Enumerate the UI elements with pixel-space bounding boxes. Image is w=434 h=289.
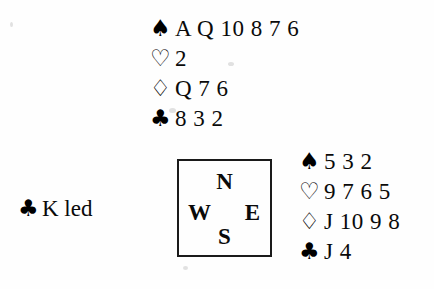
compass-west-label: W [188, 201, 211, 224]
east-spade-row: ♠ 5 3 2 [299, 146, 400, 176]
east-spade-ranks: 5 3 2 [324, 147, 373, 177]
compass-box: N W E S [177, 159, 272, 257]
east-heart-ranks: 9 7 6 5 [324, 177, 391, 207]
north-spade-row: ♠ A Q 10 8 7 6 [150, 13, 299, 43]
east-club-row: ♣ J 4 [299, 236, 400, 266]
diamond-icon: ♢ [299, 206, 324, 236]
compass-east-label: E [245, 201, 260, 224]
diamond-icon: ♢ [150, 73, 175, 103]
east-diamond-row: ♢ J 10 9 8 [299, 206, 400, 236]
north-spade-ranks: A Q 10 8 7 6 [175, 14, 299, 44]
heart-icon: ♡ [150, 43, 175, 73]
north-club-ranks: 8 3 2 [175, 104, 224, 134]
north-hand: ♠ A Q 10 8 7 6 ♡ 2 ♢ Q 7 6 ♣ 8 3 2 [150, 13, 299, 133]
club-icon: ♣ [18, 193, 42, 223]
opening-lead-text: K led [42, 194, 92, 224]
opening-lead-note: ♣ K led [18, 193, 92, 224]
compass-south-label: S [179, 225, 270, 248]
spade-icon: ♠ [150, 13, 175, 43]
compass-north-label: N [179, 170, 270, 193]
north-heart-row: ♡ 2 [150, 43, 299, 73]
north-heart-ranks: 2 [175, 44, 187, 74]
east-club-ranks: J 4 [324, 237, 352, 267]
north-diamond-row: ♢ Q 7 6 [150, 73, 299, 103]
scan-speck [228, 62, 234, 66]
scan-speck [10, 22, 13, 27]
scan-speck [169, 108, 176, 113]
spade-icon: ♠ [299, 146, 324, 176]
east-hand: ♠ 5 3 2 ♡ 9 7 6 5 ♢ J 10 9 8 ♣ J 4 [299, 146, 400, 266]
heart-icon: ♡ [299, 176, 324, 206]
east-heart-row: ♡ 9 7 6 5 [299, 176, 400, 206]
scan-speck [183, 266, 188, 270]
bridge-hand-diagram: ♠ A Q 10 8 7 6 ♡ 2 ♢ Q 7 6 ♣ 8 3 2 ♠ 5 3… [0, 0, 434, 289]
club-icon: ♣ [299, 236, 324, 266]
north-diamond-ranks: Q 7 6 [175, 74, 229, 104]
east-diamond-ranks: J 10 9 8 [324, 207, 400, 237]
